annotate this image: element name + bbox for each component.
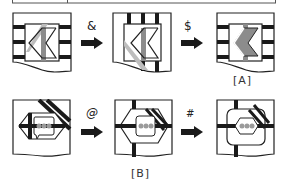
figure-bottom-1 — [12, 99, 74, 161]
table-edge — [0, 0, 283, 8]
operation-symbol: @ — [86, 106, 98, 120]
result-label-a: [A] — [233, 74, 252, 87]
result-label-b: [B] — [131, 167, 150, 180]
figure-top-1 — [12, 12, 74, 74]
right-arrow-icon — [181, 126, 203, 138]
right-arrow-icon — [181, 37, 203, 49]
operation-symbol: $ — [184, 19, 192, 33]
figure-bottom-2 — [114, 99, 176, 161]
figure-top-2 — [112, 12, 174, 74]
operation-symbol: & — [87, 19, 96, 33]
figure-bottom-3 — [216, 99, 278, 161]
figure-result-a — [216, 12, 278, 74]
operation-symbol: # — [186, 108, 194, 119]
right-arrow-icon — [81, 126, 103, 138]
right-arrow-icon — [81, 37, 103, 49]
